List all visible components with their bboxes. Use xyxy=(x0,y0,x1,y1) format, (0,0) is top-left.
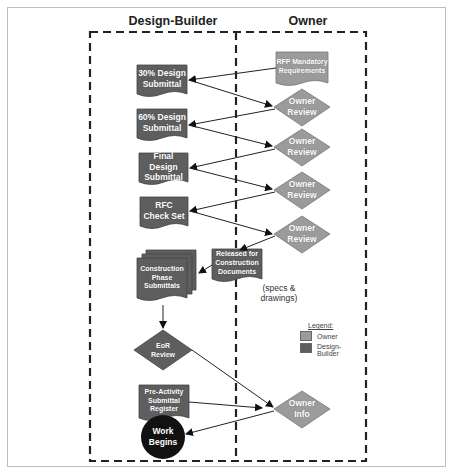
node-released-for-construction: Released for Construction Documents xyxy=(212,250,262,277)
legend: Legend: Owner Design-Builder xyxy=(300,322,355,357)
node-owner-review-3: Owner Review xyxy=(282,178,322,202)
legend-item-owner: Owner xyxy=(300,331,355,341)
design-builder-lane-border xyxy=(90,32,366,461)
released-note: (specs & drawings) xyxy=(254,283,304,303)
node-rfc-check-set: RFC Check Set xyxy=(142,198,186,224)
node-owner-info: Owner Info xyxy=(282,397,322,421)
legend-title: Legend: xyxy=(308,322,355,329)
node-owner-review-4: Owner Review xyxy=(282,222,322,246)
node-owner-review-2: Owner Review xyxy=(282,135,322,159)
flow-diagram-shapes xyxy=(0,0,454,475)
node-eor-review: EoR Review xyxy=(143,340,183,362)
node-work-begins: Work Begins xyxy=(145,424,181,450)
node-rfp-mandatory-requirements: RFP Mandatory Requirements xyxy=(276,52,328,82)
node-30-design-submittal: 30% Design Submittal xyxy=(137,66,187,92)
node-pre-activity-submittal-register: Pre-Activity Submittal Register xyxy=(139,386,189,416)
legend-swatch-owner xyxy=(300,331,312,341)
legend-item-design-builder: Design-Builder xyxy=(300,343,355,357)
node-construction-phase-submittals: Construction Phase Submittals xyxy=(137,262,187,294)
node-owner-review-1: Owner Review xyxy=(282,95,322,119)
node-60-design-submittal: 60% Design Submittal xyxy=(137,110,187,136)
legend-swatch-design-builder xyxy=(300,343,312,353)
node-final-design-submittal: Final Design Submittal xyxy=(139,154,188,180)
